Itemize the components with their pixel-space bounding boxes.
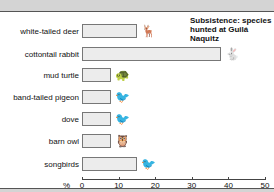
title-line-2: hunted at Guilá Naquitz [190, 25, 248, 43]
tick-mark [228, 177, 229, 180]
tick-mark [155, 177, 156, 180]
top-band [0, 0, 274, 12]
x-axis [82, 179, 265, 180]
category-label: barn owl [0, 137, 79, 146]
tick-mark [192, 177, 193, 180]
dove-icon: 🐦 [115, 112, 130, 126]
category-label: songbirds [0, 160, 79, 169]
tick-mark [82, 177, 83, 180]
pigeon-icon: 🐦 [115, 90, 130, 104]
tick-mark [119, 177, 120, 180]
category-label: dove [0, 115, 79, 124]
chart-title: Subsistence: specieshunted at Guilá Naqu… [190, 16, 274, 43]
bar [82, 157, 137, 171]
category-label: mud turtle [0, 71, 79, 80]
title-line-1: Subsistence: species [190, 16, 271, 25]
turtle-icon: 🐢 [115, 68, 130, 82]
bar [82, 112, 111, 126]
bottom-band [0, 188, 274, 192]
bar [82, 24, 137, 38]
owl-icon: 🦉 [115, 134, 130, 148]
bar [82, 90, 111, 104]
songbird-icon: 🐦 [141, 157, 156, 171]
deer-icon: 🦌 [141, 24, 156, 38]
category-label: cottontail rabbit [0, 50, 79, 59]
category-label: white-tailed deer [0, 27, 79, 36]
bar [82, 134, 111, 148]
rabbit-icon: 🐇 [225, 47, 240, 61]
category-label: band-tailed pigeon [0, 93, 79, 102]
tick-mark [265, 177, 266, 180]
bar [82, 47, 221, 61]
bar [82, 68, 111, 82]
